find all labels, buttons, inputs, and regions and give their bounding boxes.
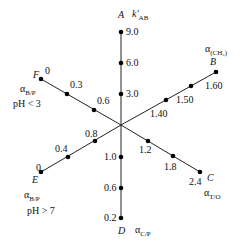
axis-e-line [41, 125, 121, 172]
tick-label: 1.40 [150, 109, 168, 119]
tick-dot [189, 84, 194, 89]
axis-f-condition: pH < 3 [13, 99, 41, 109]
tick-label: 0 [36, 163, 41, 173]
tick-label: 6.0 [126, 58, 139, 68]
tick-label: 0.6 [97, 96, 110, 106]
axis-d-param: αC/P [135, 225, 151, 238]
tick-label: 1.2 [139, 145, 152, 155]
axis-b-letter: B [210, 57, 216, 67]
axis-e-param: αB/P [24, 190, 40, 203]
tick-label: 1.50 [176, 95, 194, 105]
tick-label: 0 [45, 66, 50, 76]
axis-e-letter: E [32, 175, 38, 185]
tick-dot [198, 170, 203, 175]
tick-dot [214, 70, 219, 75]
tick-dot [119, 186, 124, 191]
tick-label: 3.0 [126, 89, 139, 99]
tick-dot [171, 154, 176, 159]
tick-dot [119, 216, 124, 221]
tick-label: 0.4 [55, 144, 68, 154]
axis-b-param: α(CH₂) [205, 44, 227, 57]
tick-label: 0.2 [104, 213, 117, 223]
axis-a-letter: A [118, 10, 124, 20]
axis-f-param: αB/P [20, 84, 36, 97]
tick-label: 1.8 [164, 162, 177, 172]
tick-dot [93, 139, 98, 144]
tick-label: 0.3 [70, 80, 83, 90]
tick-dot [146, 139, 151, 144]
tick-label: 9.0 [126, 27, 139, 37]
axis-c-line [121, 125, 200, 172]
tick-dot [119, 155, 124, 160]
tick-dot [119, 30, 124, 35]
tick-dot [66, 155, 71, 160]
axis-d-letter: D [118, 226, 125, 236]
axis-f-letter: F [33, 70, 39, 80]
tick-dot [65, 92, 70, 97]
tick-label: 0.8 [85, 129, 98, 139]
tick-label: 1.0 [104, 152, 117, 162]
tick-label: 2.4 [189, 177, 202, 187]
tick-dot [164, 98, 169, 103]
axis-c-param: αT/O [204, 188, 221, 201]
tick-dot [119, 92, 124, 97]
tick-dot [119, 61, 124, 66]
tick-dot [92, 108, 97, 113]
tick-label: 0.6 [104, 183, 117, 193]
axis-a-param: k'AB [132, 9, 148, 22]
tick-dot [39, 77, 44, 82]
tick-label: 1.60 [205, 81, 223, 91]
axis-e-condition: pH > 7 [27, 206, 55, 216]
axis-c-letter: C [207, 173, 214, 183]
